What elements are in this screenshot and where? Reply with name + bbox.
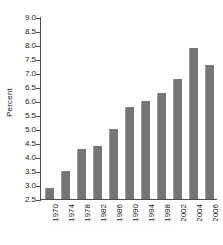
y-axis-tick xyxy=(36,74,40,75)
y-axis-tick-label: 9.0 xyxy=(14,14,36,22)
bar xyxy=(109,129,118,199)
x-axis-tick-label: 1974 xyxy=(68,204,76,222)
y-axis-tick-labels: 2.53.03.54.04.55.05.56.06.57.07.58.08.59… xyxy=(14,0,36,245)
y-axis-tick-label: 6.0 xyxy=(14,98,36,106)
y-axis-tick-label: 8.5 xyxy=(14,28,36,36)
bar xyxy=(77,149,86,199)
x-axis-tick-label: 1982 xyxy=(100,204,108,222)
bar-series xyxy=(41,18,216,199)
x-axis-tick-label: 1970 xyxy=(52,204,60,222)
y-axis-tick xyxy=(36,144,40,145)
y-axis-tick xyxy=(36,46,40,47)
x-axis-tick-label: 1998 xyxy=(164,204,172,222)
bar xyxy=(157,93,166,199)
y-axis-tick-label: 6.5 xyxy=(14,84,36,92)
y-axis-tick xyxy=(36,186,40,187)
y-axis-tick-label: 5.0 xyxy=(14,126,36,134)
bar xyxy=(173,79,182,199)
y-axis-tick-label: 3.0 xyxy=(14,182,36,190)
y-axis-tick xyxy=(36,102,40,103)
y-axis-tick-label: 5.5 xyxy=(14,112,36,120)
bar xyxy=(93,146,102,199)
y-axis-tick xyxy=(36,60,40,61)
y-axis-tick xyxy=(36,18,40,19)
bar xyxy=(205,65,214,199)
bar xyxy=(45,188,54,199)
y-axis-tick-label: 3.5 xyxy=(14,168,36,176)
y-axis-tick-label: 7.5 xyxy=(14,56,36,64)
y-axis-tick-label: 2.5 xyxy=(14,196,36,204)
y-axis-tick-label: 4.0 xyxy=(14,154,36,162)
x-axis-tick-label: 1990 xyxy=(132,204,140,222)
x-axis-tick-label: 2004 xyxy=(196,204,204,222)
bar xyxy=(61,171,70,199)
bar xyxy=(141,101,150,199)
y-axis-tick-label: 8.0 xyxy=(14,42,36,50)
x-axis-tick-label: 1994 xyxy=(148,204,156,222)
y-axis-tick-label: 7.0 xyxy=(14,70,36,78)
y-axis-tick xyxy=(36,116,40,117)
y-axis-tick xyxy=(36,172,40,173)
y-axis-tick-label: 4.5 xyxy=(14,140,36,148)
x-axis-tick-label: 1978 xyxy=(84,204,92,222)
y-axis-tick xyxy=(36,32,40,33)
bar xyxy=(125,107,134,199)
y-axis-tick xyxy=(36,130,40,131)
bar-chart: Percent 2.53.03.54.04.55.05.56.06.57.07.… xyxy=(0,0,223,245)
bar xyxy=(189,48,198,199)
y-axis-tick xyxy=(36,158,40,159)
plot-area xyxy=(40,18,216,200)
x-axis-tick-label: 2006 xyxy=(212,204,220,222)
x-axis-tick-label: 1986 xyxy=(116,204,124,222)
y-axis-tick xyxy=(36,88,40,89)
x-axis-tick-labels: 1970197419781982198619901994199820022004… xyxy=(40,200,216,245)
x-axis-tick-label: 2002 xyxy=(180,204,188,222)
